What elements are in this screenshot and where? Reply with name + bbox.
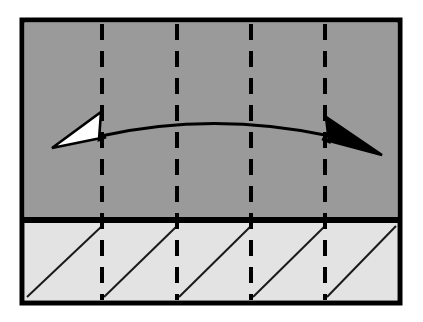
figure-svg — [0, 0, 423, 322]
lower-region-fill — [25, 223, 397, 300]
diagram-canvas: Cross-section diagram with double-headed… — [0, 0, 423, 322]
upper-region-fill — [25, 23, 397, 218]
